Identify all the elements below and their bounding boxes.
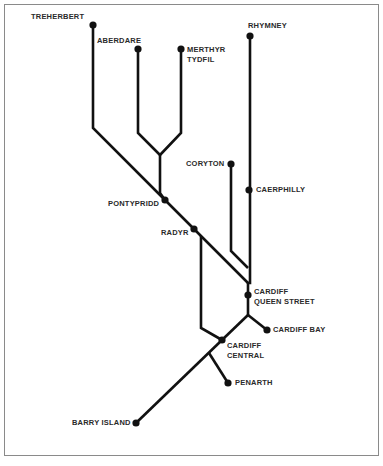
route-penarth-branch [209,353,228,383]
station-label-cardiff-central: CARDIFF CENTRAL [227,341,264,361]
route-cardiff-bay-branch [248,315,267,330]
station-dot-cardiff-queen-street [244,291,251,298]
route-radyr-city-line [201,236,222,340]
station-label-line: MERTHYR [187,45,225,55]
route-merthyr-line [160,49,181,155]
station-label-line: CENTRAL [227,351,264,361]
route-valleys-trunk [160,155,165,200]
station-label-barry-island: BARRY ISLAND [72,418,131,428]
station-label-pontypridd: PONTYPRIDD [108,199,159,209]
station-dot-cardiff-central [218,336,225,343]
station-label-penarth: PENARTH [235,378,273,388]
station-dot-treherbert [89,21,96,28]
station-dot-cardiff-bay [263,326,270,333]
station-label-cardiff-queen-street: CARDIFF QUEEN STREET [254,287,315,307]
route-treherbert-line [93,25,165,200]
station-label-line: TYDFIL [187,55,225,65]
route-main-diagonal [165,200,248,283]
station-dot-merthyr [177,45,184,52]
station-label-coryton: CORYTON [186,159,225,169]
truncated-caption [6,458,186,466]
station-label-radyr: RADYR [161,228,189,238]
station-label-line: CARDIFF [227,341,264,351]
station-dot-coryton [227,160,234,167]
station-label-aberdare: ABERDARE [97,36,141,46]
route-aberdare-line [138,49,160,155]
route-queen-st-to-central [222,315,248,340]
station-dot-penarth [224,379,231,386]
station-label-line: CARDIFF [254,287,315,297]
station-dot-caerphilly [245,186,252,193]
rail-network-map [0,0,383,466]
route-barry-line [136,340,222,423]
station-dot-rhymney [246,32,253,39]
station-label-merthyr-tydfil: MERTHYR TYDFIL [187,45,225,65]
station-label-treherbert: TREHERBERT [31,12,84,22]
station-dot-aberdare [134,45,141,52]
station-label-line: QUEEN STREET [254,297,315,307]
station-dot-radyr [190,225,197,232]
station-dot-pontypridd [161,196,168,203]
route-coryton-line [231,164,248,268]
station-label-caerphilly: CAERPHILLY [256,185,305,195]
station-label-rhymney: RHYMNEY [248,21,287,31]
route-rhymney-line [248,36,250,315]
station-label-cardiff-bay: CARDIFF BAY [273,325,325,335]
station-dot-barry-island [132,419,139,426]
